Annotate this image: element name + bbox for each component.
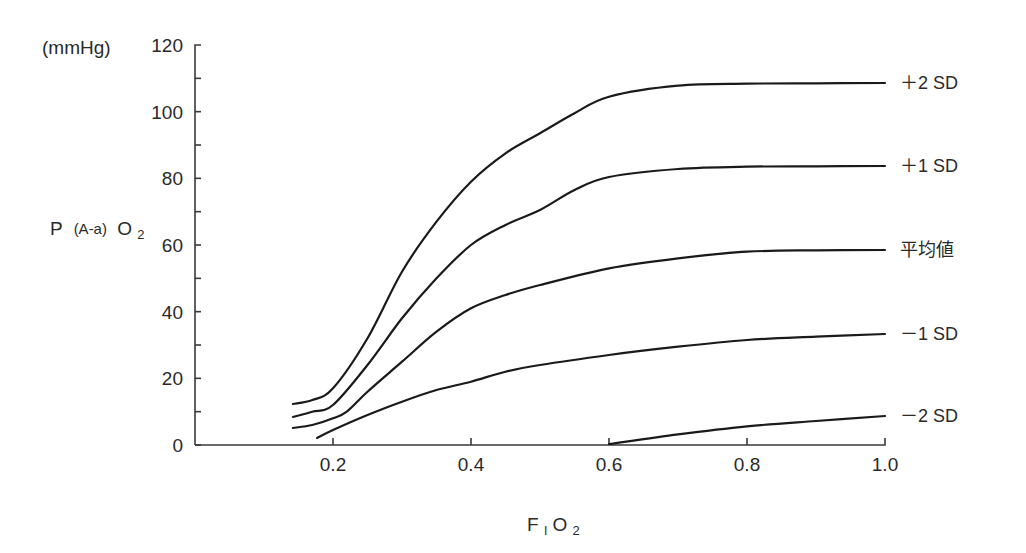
y-tick-label: 20 [162,368,183,389]
x-axis-title-o: O [553,514,568,535]
series-label-mean: 平均値 [900,240,954,260]
series-labels: ＋2 SD＋1 SD平均値－1 SD－2 SD [900,73,958,426]
series-label-minus1-sd: －1 SD [900,324,958,344]
x-axis-title-f: F [527,514,539,535]
x-tick-label: 0.8 [734,454,760,475]
y-unit-label: (mmHg) [42,37,111,58]
curve-mean [293,250,885,428]
y-tick-label: 100 [151,102,183,123]
series-label-minus2-sd: －2 SD [900,406,958,426]
tick-labels: 0204060801001200.20.40.60.81.0 [151,35,898,475]
x-axis-line [195,438,885,445]
x-tick-label: 0.2 [320,454,346,475]
y-tick-label: 60 [162,235,183,256]
chart-canvas: 0204060801001200.20.40.60.81.0 ＋2 SD＋1 S… [0,0,1026,553]
curve-plus2-sd [293,83,885,404]
axes [195,45,885,445]
y-axis-title-sub: 2 [137,227,144,242]
x-tick-label: 1.0 [872,454,898,475]
y-tick-label: 40 [162,302,183,323]
y-tick-label: 0 [172,435,183,456]
x-tick-label: 0.6 [596,454,622,475]
plot-curves [293,83,885,444]
x-axis-title: F I O 2 [527,514,580,539]
y-axis-title-p: P [50,218,62,239]
tick-marks [195,78,747,445]
series-label-plus1-sd: ＋1 SD [900,156,958,176]
y-tick-label: 120 [151,35,183,56]
y-axis-title: P (A-a) O 2 [50,217,145,242]
x-tick-label: 0.4 [458,454,485,475]
y-axis-title-paren: (A-a) [74,220,107,237]
y-axis-title-o: O [117,218,132,239]
x-axis-title-sub-i: I [544,524,547,538]
series-label-plus2-sd: ＋2 SD [900,73,958,93]
x-axis-title-sub-2: 2 [573,523,580,538]
y-tick-label: 80 [162,168,183,189]
